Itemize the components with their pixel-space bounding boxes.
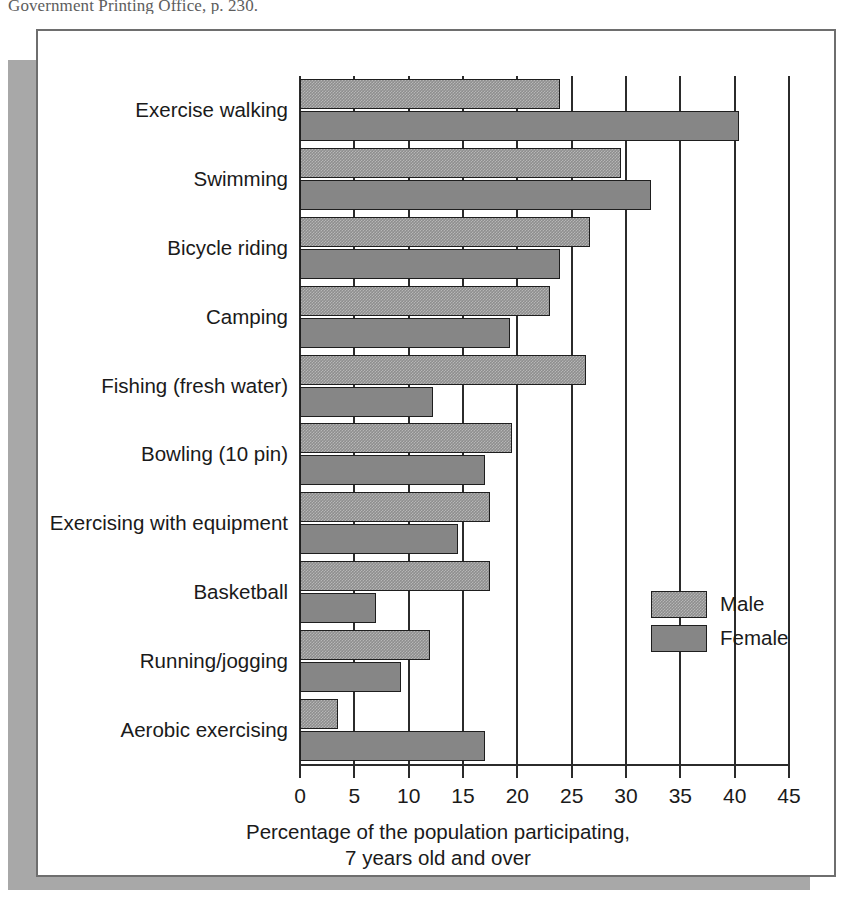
x-gridline xyxy=(353,76,355,764)
x-tickmark xyxy=(408,764,410,778)
category-label: Exercise walking xyxy=(135,100,288,121)
x-tick-label: 40 xyxy=(705,784,765,808)
x-gridline xyxy=(516,76,518,764)
x-tickmark xyxy=(353,764,355,778)
x-tick-label: 45 xyxy=(759,784,819,808)
x-gridline xyxy=(679,76,681,764)
x-tick-label: 15 xyxy=(433,784,493,808)
x-tickmark xyxy=(625,764,627,778)
legend-swatch-female xyxy=(651,625,707,652)
bar-female xyxy=(300,249,560,279)
bar-female xyxy=(300,387,433,417)
x-tick-label: 20 xyxy=(487,784,547,808)
x-axis-line xyxy=(300,764,789,766)
x-gridline xyxy=(625,76,627,764)
x-tick-label: 30 xyxy=(596,784,656,808)
bar-female xyxy=(300,455,485,485)
x-gridline xyxy=(408,76,410,764)
category-label: Bicycle riding xyxy=(167,238,288,259)
x-tick-label: 0 xyxy=(270,784,330,808)
bar-female xyxy=(300,593,376,623)
figure-panel: 051015202530354045Exercise walkingSwimmi… xyxy=(36,29,836,877)
category-label: Camping xyxy=(206,307,288,328)
category-label: Exercising with equipment xyxy=(50,513,288,534)
bar-female xyxy=(300,524,458,554)
bar-male xyxy=(300,699,338,729)
x-tickmark xyxy=(299,764,301,778)
legend-swatch-male xyxy=(651,591,707,618)
bar-male xyxy=(300,630,430,660)
x-gridline xyxy=(788,76,790,764)
legend-label: Male xyxy=(720,592,764,616)
bar-male xyxy=(300,561,490,591)
x-gridline xyxy=(462,76,464,764)
page-caption: Government Printing Office, p. 230. xyxy=(8,0,508,14)
category-label: Basketball xyxy=(193,582,288,603)
bar-male xyxy=(300,79,560,109)
bar-female xyxy=(300,111,739,141)
bar-male xyxy=(300,148,621,178)
x-tick-label: 35 xyxy=(650,784,710,808)
x-gridline xyxy=(571,76,573,764)
bar-male xyxy=(300,423,512,453)
category-label: Aerobic exercising xyxy=(121,720,289,741)
bar-female xyxy=(300,318,510,348)
bar-chart-plot-area: 051015202530354045Exercise walkingSwimmi… xyxy=(38,31,838,879)
bar-male xyxy=(300,492,490,522)
category-label: Fishing (fresh water) xyxy=(101,376,288,397)
bar-male xyxy=(300,286,550,316)
bar-male xyxy=(300,217,590,247)
legend-item[interactable]: Female xyxy=(651,621,788,655)
x-axis-title-line1: Percentage of the population participati… xyxy=(38,819,838,845)
x-tickmark xyxy=(788,764,790,778)
x-tickmark xyxy=(734,764,736,778)
bar-male xyxy=(300,355,586,385)
x-gridline xyxy=(299,76,301,764)
x-tickmark xyxy=(571,764,573,778)
category-label: Bowling (10 pin) xyxy=(141,444,288,465)
x-tickmark xyxy=(462,764,464,778)
category-label: Swimming xyxy=(193,169,288,190)
x-axis-title: Percentage of the population participati… xyxy=(38,819,838,870)
x-tickmark xyxy=(679,764,681,778)
bar-female xyxy=(300,731,485,761)
x-tick-label: 10 xyxy=(379,784,439,808)
chart-legend: MaleFemale xyxy=(651,587,788,655)
legend-item[interactable]: Male xyxy=(651,587,788,621)
x-axis-title-line2: 7 years old and over xyxy=(38,845,838,871)
x-tickmark xyxy=(516,764,518,778)
x-gridline xyxy=(734,76,736,764)
bar-female xyxy=(300,662,401,692)
legend-label: Female xyxy=(720,626,788,650)
x-tick-label: 5 xyxy=(324,784,384,808)
bar-female xyxy=(300,180,651,210)
category-label: Running/jogging xyxy=(140,651,288,672)
x-tick-label: 25 xyxy=(542,784,602,808)
